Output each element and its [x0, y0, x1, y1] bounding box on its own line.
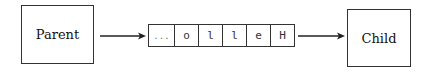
child-process-box: Child	[347, 9, 411, 67]
buffer-cell: H	[270, 25, 294, 46]
buffer-cell-ellipsis: ...	[149, 25, 174, 46]
child-label: Child	[362, 31, 397, 46]
pipe-buffer: ... o l l e H	[148, 24, 295, 47]
buffer-cell: e	[246, 25, 270, 46]
buffer-cell: l	[198, 25, 222, 46]
buffer-cell: l	[222, 25, 246, 46]
buffer-cell: o	[174, 25, 198, 46]
